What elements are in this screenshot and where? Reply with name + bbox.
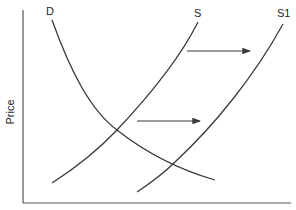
shifted-supply-curve xyxy=(137,24,283,192)
demand-label: D xyxy=(46,5,54,17)
supply-label: S xyxy=(194,7,201,19)
demand-curve xyxy=(52,20,215,180)
shifted-supply-label: S1 xyxy=(277,7,290,19)
y-axis-label: Price xyxy=(4,99,16,124)
supply-curve xyxy=(52,22,198,183)
supply-demand-diagram: Price D S S1 xyxy=(0,0,296,210)
